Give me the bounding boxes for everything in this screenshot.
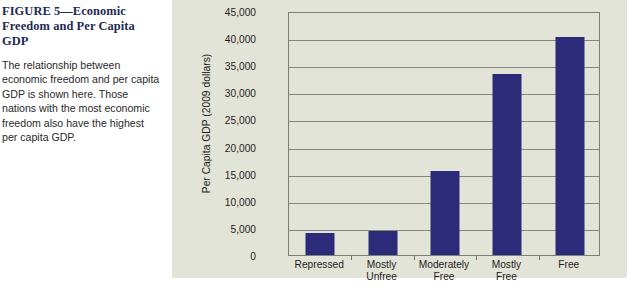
bar[interactable]	[368, 231, 397, 255]
y-axis-tick-label: 10,000	[225, 196, 256, 207]
bar-slot	[414, 13, 476, 255]
y-axis-tick-label: 25,000	[225, 115, 256, 126]
figure-caption-column: FIGURE 5—Economic Freedom and Per Capita…	[0, 0, 168, 291]
x-axis-tick-label-line: Mostly	[350, 259, 412, 271]
bar[interactable]	[555, 37, 584, 255]
y-axis-tick-label: 40,000	[225, 34, 256, 45]
figure-title: FIGURE 5—Economic Freedom and Per Capita…	[2, 4, 160, 49]
x-axis-tick-label: Repressed	[288, 259, 350, 271]
x-axis-tick-label: MostlyFree	[475, 259, 537, 284]
y-axis-tick-label: 20,000	[225, 142, 256, 153]
bars-layer	[289, 13, 599, 255]
x-axis-tick-label-line: Moderately	[413, 259, 475, 271]
bar-slot	[289, 13, 351, 255]
bar[interactable]	[493, 74, 522, 255]
figure-panel: Per Capita GDP (2009 dollars) 45,00040,0…	[172, 0, 627, 278]
bar-slot	[351, 13, 413, 255]
x-axis-tick-label: ModeratelyFree	[413, 259, 475, 284]
bar-slot	[476, 13, 538, 255]
y-axis-tick-label: 15,000	[225, 169, 256, 180]
bar-chart: Per Capita GDP (2009 dollars) 45,00040,0…	[172, 0, 627, 278]
x-axis-tick-label-line: Unfree	[350, 271, 412, 283]
x-axis-tick-label: Free	[538, 259, 600, 271]
y-axis-tick-label: 45,000	[225, 7, 256, 18]
bar[interactable]	[430, 171, 459, 255]
plot-area	[288, 12, 600, 256]
y-axis-tick-label: 5,000	[231, 223, 257, 234]
y-axis-tick-label: 30,000	[225, 88, 256, 99]
x-axis-tick-label-line: Free	[538, 259, 600, 271]
x-axis-tick-labels: RepressedMostlyUnfreeModeratelyFreeMostl…	[288, 259, 600, 291]
y-axis-tick-labels: 45,00040,00035,00030,00025,00020,00015,0…	[200, 10, 256, 260]
bar-slot	[539, 13, 601, 255]
x-axis-tick-label-line: Repressed	[288, 259, 350, 271]
x-axis-tick-label: MostlyUnfree	[350, 259, 412, 284]
x-axis-tick-label-line: Free	[413, 271, 475, 283]
y-axis-tick-label: 35,000	[225, 61, 256, 72]
bar[interactable]	[306, 233, 335, 255]
x-axis-tick-label-line: Mostly	[475, 259, 537, 271]
y-axis-tick-label: 0	[250, 251, 256, 262]
x-axis-tick-label-line: Free	[475, 271, 537, 283]
figure-description: The relationship between economic freedo…	[2, 58, 160, 144]
